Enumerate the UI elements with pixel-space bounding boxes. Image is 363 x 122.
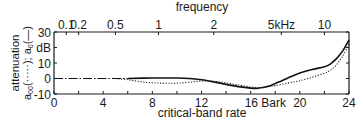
y-tick-label: 10: [38, 57, 52, 71]
y-tick-label: -10: [34, 88, 52, 102]
x-tick-label: 4: [100, 96, 107, 110]
x-tick-label: 0: [51, 96, 58, 110]
x-axis-title: critical-band rate: [158, 106, 247, 120]
x-tick-label: 24: [342, 96, 356, 110]
top-tick-label: 5kHz: [268, 18, 295, 32]
top-tick-label: 2: [210, 18, 217, 32]
top-tick-label: 1: [155, 18, 162, 32]
attenuation-chart: -10010dB30 0481216 Bark2024 0.10.20.5125…: [0, 0, 363, 122]
x-tick-label: 16 Bark: [245, 96, 287, 110]
plot-frame: [54, 32, 349, 94]
y-tick-label: 0: [44, 72, 51, 86]
top-tick-label: 0.2: [70, 18, 87, 32]
top-tick-label: 10: [318, 18, 332, 32]
y-tick-label: 30: [38, 26, 52, 40]
y-ticks: -10010dB30: [34, 26, 349, 102]
top-axis-title: frequency: [176, 0, 229, 14]
y-axis-title: attenuation a00(·····); a0(—): [9, 26, 34, 100]
svg-text:attenuation: attenuation: [9, 35, 21, 92]
x-tick-label: 20: [293, 96, 307, 110]
top-tick-label: 0.5: [107, 18, 124, 32]
curve-a0-solid: [128, 40, 349, 89]
svg-text:a00(·····); a0(—): a00(·····); a0(—): [21, 26, 34, 100]
curve-a00-dotted: [116, 44, 350, 87]
y-tick-label: dB: [36, 41, 51, 55]
x-tick-label: 8: [149, 96, 156, 110]
